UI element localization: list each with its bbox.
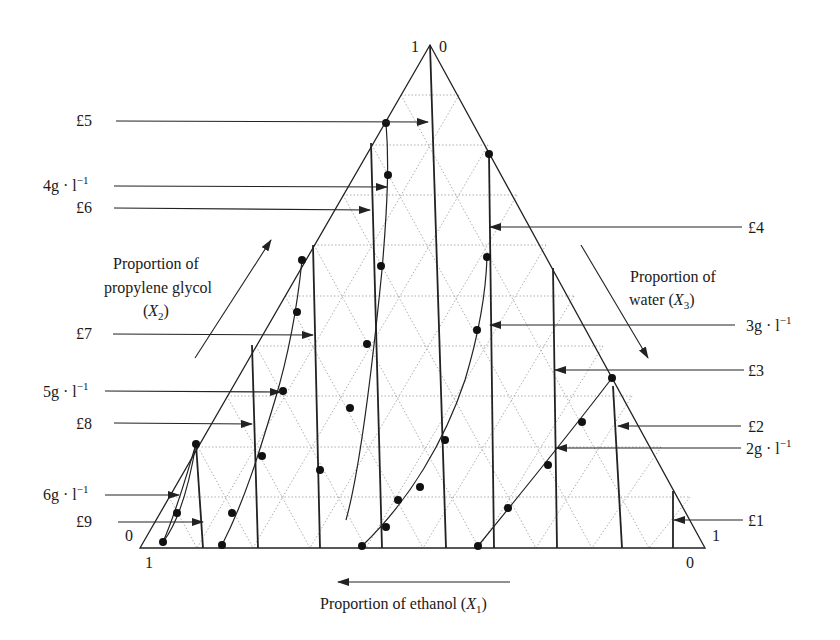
bottom-left-side-label: 0 <box>125 527 133 544</box>
cost-line-2 <box>613 386 622 548</box>
label-cost-4: £4 <box>748 219 764 236</box>
cost-line-8 <box>252 345 258 548</box>
label-conc-3: 3g · l−1 <box>746 314 792 335</box>
cost-contours <box>196 45 673 548</box>
cost-line-6 <box>371 143 382 548</box>
x3-axis-title: Proportion of <box>630 268 716 286</box>
label-cost-8: £8 <box>76 415 92 432</box>
bottom-right-side-label: 1 <box>712 527 720 544</box>
x2-axis-symbol: (X2) <box>143 302 169 322</box>
conc-curve-4 <box>346 123 388 520</box>
label-cost-6: £6 <box>76 199 92 216</box>
label-conc-4: 4g · l−1 <box>43 174 89 195</box>
ternary-diagram: 1 0 0 1 1 0 £5 4g · l−1 £6 £7 5g · l−1 £… <box>0 0 840 640</box>
label-cost-3: £3 <box>748 362 764 379</box>
x2-axis-title: Proportion of propylene glycol <box>104 255 213 297</box>
cost-line-3 <box>553 268 557 548</box>
cost-line-9 <box>196 444 203 548</box>
label-cost-2: £2 <box>748 418 764 435</box>
cost-line-4 <box>489 154 494 548</box>
conc-curve-5 <box>222 260 302 545</box>
cost-line-7 <box>313 245 320 548</box>
x3-axis-symbol: water (X3) <box>629 291 694 311</box>
bottom-right-base-label: 0 <box>686 554 694 571</box>
apex-label-right: 0 <box>439 38 447 55</box>
apex-label-left: 1 <box>411 38 419 55</box>
bottom-left-base-label: 1 <box>145 554 153 571</box>
triangle-grid <box>169 95 690 548</box>
triangle-outline <box>140 45 705 548</box>
label-cost-7: £7 <box>76 325 92 342</box>
conc-curve-6 <box>163 444 196 542</box>
label-conc-6: 6g · l−1 <box>43 483 89 504</box>
label-cost-5: £5 <box>76 112 92 129</box>
label-cost-9: £9 <box>76 513 92 530</box>
label-conc-2: 2g · l−1 <box>746 437 792 458</box>
x1-axis-title: Proportion of ethanol (X1) <box>320 595 487 615</box>
label-conc-5: 5g · l−1 <box>43 380 89 401</box>
label-cost-1: £1 <box>748 512 764 529</box>
